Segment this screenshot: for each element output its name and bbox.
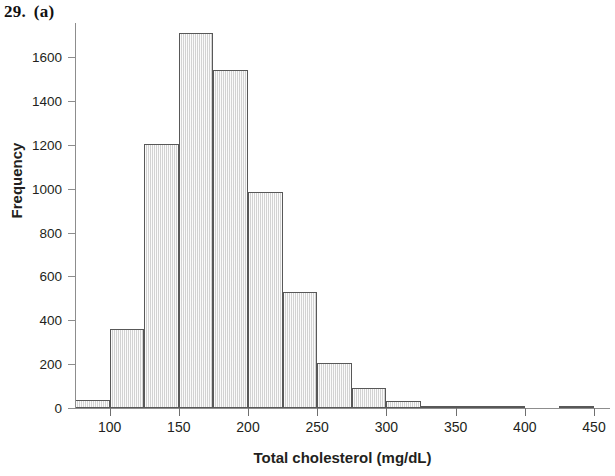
y-axis-tick [68,276,76,277]
x-axis-tick [110,408,111,416]
x-axis-tick-label: 400 [513,419,536,435]
y-axis-tick-label: 200 [6,357,62,372]
histogram-bar [352,388,387,408]
y-axis-tick [68,320,76,321]
x-axis-tick [248,408,249,416]
histogram-bar [213,70,248,408]
x-axis-tick [594,408,595,416]
histogram-figure: 29.(a) 02004006008001000120014001600 100… [0,0,615,476]
x-axis-tick-label: 100 [98,419,121,435]
histogram-bar [386,401,421,408]
y-axis-tick [68,145,76,146]
x-axis-title: Total cholesterol (mg/dL) [75,449,610,466]
histogram-bar [110,329,145,408]
y-axis-tick-label: 1600 [6,50,62,65]
x-axis-tick [386,408,387,416]
x-axis-tick [179,408,180,416]
histogram-bar [248,192,283,408]
x-axis-tick-label: 350 [444,419,467,435]
y-axis-tick-label: 600 [6,269,62,284]
histogram-bar [75,400,110,408]
y-axis-tick [68,57,76,58]
histogram-bar [283,292,318,408]
y-axis-tick [68,101,76,102]
y-axis-tick-label: 400 [6,313,62,328]
x-axis-tick [456,408,457,416]
y-axis-tick [68,408,76,409]
histogram-bar [317,363,352,408]
x-axis-line [75,408,610,409]
histogram-bar [179,33,214,408]
x-axis-tick-label: 250 [306,419,329,435]
y-axis-line [75,23,76,409]
y-axis-tick-label: 0 [6,401,62,416]
plot-area: 02004006008001000120014001600 1001502002… [0,0,615,476]
x-axis-tick-label: 200 [236,419,259,435]
x-axis-tick-label: 150 [167,419,190,435]
x-axis-tick-label: 300 [375,419,398,435]
y-axis-tick [68,189,76,190]
y-axis-tick [68,233,76,234]
y-axis-title: Frequency [8,101,25,261]
x-axis-tick-label: 450 [582,419,605,435]
x-axis-tick [317,408,318,416]
x-axis-tick [525,408,526,416]
histogram-bar [144,144,179,408]
y-axis-tick [68,364,76,365]
